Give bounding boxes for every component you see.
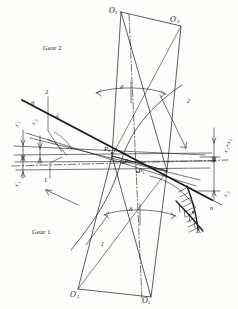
label-gear-2: Gear 2 [43, 44, 62, 51]
gear2-body [112, 12, 181, 171]
gear1-body [78, 156, 167, 297]
label-delta-top: δ [120, 83, 123, 91]
pitch-cone-arc [71, 85, 182, 250]
arc-pointer-lower [46, 190, 78, 205]
label-n-lower: n [210, 204, 213, 211]
dimension-right [196, 128, 220, 200]
label-delta-bottom: δ [129, 205, 132, 213]
label-O2-prime: O′2 [170, 15, 179, 24]
gear-geometry-figure: O2 O′2 O′1 O1 Gear 2 Gear 1 P2 P P1 K n … [0, 0, 238, 309]
label-line-1-left: 1 [44, 176, 47, 183]
label-line-2-left: 2 [45, 88, 48, 95]
normal-line-n [22, 100, 212, 200]
arc-pointer-upper-right [160, 95, 186, 148]
label-O2: O2 [109, 6, 117, 15]
normal-line-n-thin [212, 200, 222, 205]
label-O1-prime: O′1 [70, 290, 79, 299]
label-K: K [196, 226, 201, 235]
label-n-upper: n [31, 99, 35, 107]
label-P: P [124, 157, 128, 165]
label-P1: P1 [138, 167, 144, 175]
delta-top-arc [96, 82, 166, 103]
label-gear-1: Gear 1 [32, 228, 51, 235]
label-P2: P2 [104, 145, 110, 153]
contact-flank-mating-hatch [179, 204, 195, 228]
label-O1: O1 [142, 296, 150, 305]
delta-bottom-arc [104, 204, 176, 225]
leader-line-1 [50, 157, 62, 178]
dimension-left [21, 130, 25, 178]
diagram-canvas [0, 0, 238, 309]
